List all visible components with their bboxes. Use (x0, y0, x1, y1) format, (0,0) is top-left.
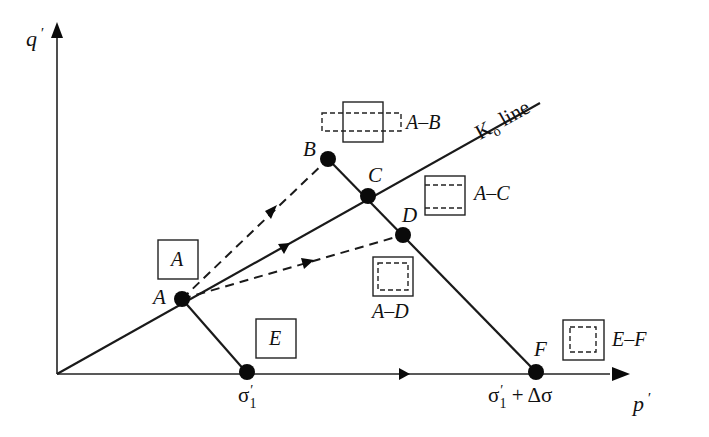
box-a-label: A (169, 248, 184, 270)
stress-path-diagram: q′ p′ Ko line A B C D F A E A–B (0, 0, 709, 437)
y-axis-arrow-icon (51, 22, 63, 38)
point-c (360, 188, 376, 204)
point-d (395, 227, 411, 243)
point-a-label: A (151, 285, 166, 309)
box-ad-dashed (378, 263, 408, 290)
point-a (174, 291, 190, 307)
box-e-label: E (268, 327, 281, 349)
box-ac-label: A–C (472, 182, 510, 204)
box-ef-dashed (570, 327, 596, 352)
path-a-b-arrow-icon (265, 205, 277, 219)
point-f (528, 364, 544, 380)
point-b-label: B (303, 137, 316, 161)
axes (51, 22, 630, 381)
sample-box-e-f: E–F (563, 320, 647, 360)
box-ad-label: A–D (370, 300, 409, 322)
x-axis-label: p′ (631, 390, 651, 416)
point-b (320, 151, 336, 167)
box-ab-solid (343, 102, 383, 142)
point-d-label: D (401, 203, 417, 227)
box-ab-label: A–B (404, 111, 440, 133)
path-e-f-arrow-icon (399, 368, 410, 380)
box-ab-dashed (322, 113, 401, 131)
point-e (239, 364, 255, 380)
tick-sigma1: σ′1 (238, 383, 256, 411)
k0-line-label: Ko line (471, 95, 536, 147)
box-ac-solid (425, 176, 465, 215)
point-f-label: F (533, 337, 547, 361)
x-axis-arrow-icon (612, 367, 630, 381)
path-a-d-arrow-icon (301, 258, 314, 269)
sample-box-a-b: A–B (322, 102, 440, 142)
path-a-e (182, 299, 246, 372)
sample-box-a: A (158, 240, 198, 279)
point-c-label: C (368, 163, 383, 187)
k0-line (57, 103, 540, 374)
sample-box-e: E (256, 319, 296, 358)
sample-box-a-d: A–D (370, 257, 413, 322)
box-ef-solid (563, 320, 604, 360)
tick-sigma1-plus-delta-sigma: σ′1 + Δσ (488, 383, 552, 411)
box-ef-label: E–F (611, 328, 647, 350)
sample-box-a-c: A–C (425, 176, 510, 215)
y-axis-label: q′ (26, 25, 44, 51)
